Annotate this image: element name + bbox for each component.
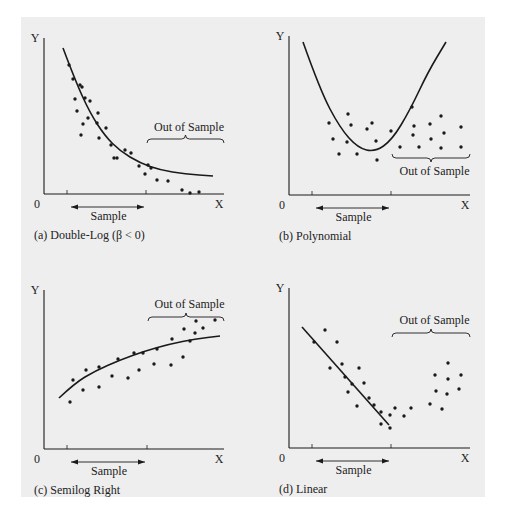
out-of-sample-data-point	[433, 373, 436, 376]
arrowhead-left-icon	[316, 459, 323, 464]
out-of-sample-data-point	[152, 362, 155, 365]
sample-data-point	[346, 390, 349, 393]
sample-data-point	[355, 152, 358, 155]
sample-data-point	[79, 133, 82, 136]
sample-data-point	[355, 404, 358, 407]
arrowhead-right-icon	[382, 459, 389, 464]
sample-data-point	[350, 382, 353, 385]
out-of-sample-data-point	[446, 361, 449, 364]
sample-data-point	[141, 351, 144, 354]
sample-data-point	[362, 381, 365, 384]
sample-data-point	[335, 340, 338, 343]
sample-data-point	[109, 143, 112, 146]
out-of-sample-data-point	[194, 319, 197, 322]
x-axis-label: X	[215, 197, 224, 211]
sample-label: Sample	[336, 210, 372, 224]
out-of-sample-label: Out of Sample	[154, 120, 224, 134]
out-of-sample-data-point	[146, 163, 149, 166]
y-axis-label: Y	[31, 283, 40, 297]
out-of-sample-data-point	[166, 179, 169, 182]
out-of-sample-data-point	[155, 347, 158, 350]
out-of-sample-data-point	[181, 355, 184, 358]
out-of-sample-data-point	[188, 191, 191, 194]
x-axis-label: X	[461, 198, 470, 212]
sample-data-point	[372, 403, 375, 406]
sample-data-point	[104, 126, 107, 129]
arrowhead-right-icon	[138, 460, 145, 465]
sample-data-point	[86, 116, 89, 119]
sample-data-point	[345, 140, 348, 143]
out-of-sample-data-point	[155, 178, 158, 181]
sample-data-point	[81, 122, 84, 125]
sample-data-point	[129, 151, 132, 154]
sample-data-point	[343, 375, 346, 378]
out-of-sample-data-point	[213, 318, 216, 321]
sample-label: Sample	[91, 209, 127, 223]
panel-caption: (c) Semilog Right	[34, 483, 121, 497]
out-of-sample-data-point	[182, 327, 185, 330]
y-axis-label: Y	[31, 31, 40, 45]
arrowhead-left-icon	[316, 206, 323, 211]
sample-data-point	[110, 374, 113, 377]
out-of-sample-data-point	[428, 402, 431, 405]
arrowhead-left-icon	[71, 460, 78, 465]
sample-data-point	[312, 340, 315, 343]
out-of-sample-data-point	[457, 387, 460, 390]
figure-canvas: YX0Sample(a) Double-Log (β < 0)Out of Sa…	[0, 0, 506, 515]
out-of-sample-data-point	[201, 326, 204, 329]
sample-data-point	[95, 121, 98, 124]
sample-data-point	[83, 96, 86, 99]
arrowhead-right-icon	[137, 205, 144, 210]
out-of-sample-data-point	[459, 125, 462, 128]
sample-data-point	[67, 63, 70, 66]
out-of-sample-data-point	[442, 131, 445, 134]
out-of-sample-data-point	[412, 124, 415, 127]
out-of-sample-data-point	[398, 145, 401, 148]
sample-data-point	[84, 368, 87, 371]
out-of-sample-brace	[148, 313, 224, 321]
out-of-sample-data-point	[439, 114, 442, 117]
out-of-sample-data-point	[434, 389, 437, 392]
sample-label: Sample	[91, 464, 127, 478]
sample-data-point	[370, 121, 373, 124]
fitted-curve	[63, 48, 213, 176]
sample-data-point	[375, 158, 378, 161]
sample-data-point	[97, 385, 100, 388]
sample-data-point	[349, 123, 352, 126]
out-of-sample-data-point	[459, 373, 462, 376]
out-of-sample-label: Out of Sample	[400, 313, 470, 327]
out-of-sample-data-point	[197, 190, 200, 193]
out-of-sample-data-point	[180, 188, 183, 191]
sample-data-point	[357, 366, 360, 369]
sample-data-point	[80, 85, 83, 88]
y-axis-label: Y	[276, 281, 285, 295]
panel-caption: (d) Linear	[279, 482, 327, 496]
out-of-sample-data-point	[439, 146, 442, 149]
out-of-sample-data-point	[188, 339, 191, 342]
fitted-curve	[303, 42, 446, 151]
sample-data-point	[71, 378, 74, 381]
out-of-sample-data-point	[402, 414, 405, 417]
sample-data-point	[331, 137, 334, 140]
sample-data-point	[96, 111, 99, 114]
y-axis-label: Y	[276, 29, 285, 43]
sample-data-point	[115, 156, 118, 159]
out-of-sample-data-point	[446, 377, 449, 380]
out-of-sample-brace	[147, 135, 224, 143]
out-of-sample-data-point	[149, 166, 152, 169]
out-of-sample-data-point	[143, 172, 146, 175]
out-of-sample-label: Out of Sample	[400, 164, 470, 178]
panel-b: YX0Sample(b) PolynomialOut of Sample	[276, 29, 470, 243]
sample-data-point	[73, 97, 76, 100]
sample-data-point	[388, 413, 391, 416]
panel-a: YX0Sample(a) Double-Log (β < 0)Out of Sa…	[31, 31, 224, 242]
sample-data-point	[126, 376, 129, 379]
out-of-sample-data-point	[411, 133, 414, 136]
out-of-sample-brace	[392, 329, 470, 337]
sample-data-point	[374, 139, 377, 142]
sample-data-point	[123, 148, 126, 151]
panel-c: YX0Sample(c) Semilog RightOut of Sample	[31, 283, 225, 497]
sample-data-point	[328, 366, 331, 369]
out-of-sample-data-point	[170, 337, 173, 340]
out-of-sample-data-point	[429, 137, 432, 140]
